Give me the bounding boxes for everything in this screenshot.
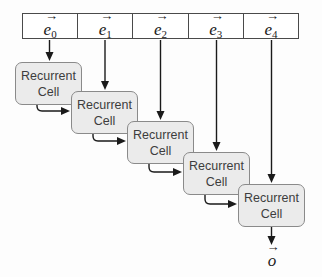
vector-label-e3: →e3 <box>208 21 223 38</box>
vector-label-e1: →e1 <box>98 21 113 38</box>
vector-arrow-icon: → <box>266 9 279 22</box>
input-arrow-e2 <box>157 40 165 120</box>
input-cell-e4: →e4 <box>244 14 298 38</box>
cell-connector-2-3 <box>93 134 126 145</box>
input-cell-e2: →e2 <box>133 14 188 38</box>
vector-label-e2: →e2 <box>153 21 168 38</box>
input-arrow-e4 <box>268 40 276 183</box>
input-arrow-e3 <box>213 40 221 151</box>
vector-label-o: →o <box>267 252 278 269</box>
rnn-sequence-diagram: →e0 →e1 →e2 →e3 →e4 <box>0 0 322 277</box>
input-arrow-e0 <box>46 40 54 61</box>
input-arrow-e1 <box>101 40 109 90</box>
input-cell-e3: →e3 <box>189 14 244 38</box>
vector-arrow-icon: → <box>267 240 280 253</box>
input-vector-row: →e0 →e1 →e2 →e3 →e4 <box>22 13 299 39</box>
input-cell-e0: →e0 <box>23 14 78 38</box>
vector-label-e0: →e0 <box>43 21 58 38</box>
cell-connector-3-4 <box>149 164 182 176</box>
vector-arrow-icon: → <box>45 9 58 22</box>
vector-label-e4: →e4 <box>263 21 278 38</box>
input-cell-e1: →e1 <box>78 14 133 38</box>
vector-arrow-icon: → <box>156 9 169 22</box>
recurrent-cell-5: Recurrent Cell <box>238 184 305 227</box>
output-vector-label: →o <box>258 246 286 270</box>
cell-connector-4-5 <box>205 195 237 208</box>
vector-arrow-icon: → <box>211 9 224 22</box>
cell-connector-1-2 <box>37 105 70 115</box>
vector-arrow-icon: → <box>100 9 113 22</box>
